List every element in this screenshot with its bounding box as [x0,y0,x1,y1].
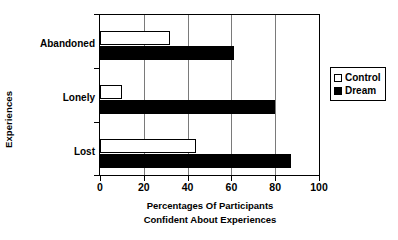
legend-label-control: Control [345,72,381,83]
x-axis-tick-label-100: 100 [299,181,339,193]
y-axis-title: Experiences [0,54,18,184]
x-axis-tick-label-60: 60 [211,181,251,193]
x-axis-title-line-1: Percentages Of Participants [70,199,350,213]
gridline-x-60 [231,15,232,175]
x-axis-tick-labels: 020406080100 [99,181,320,195]
bar-control-abandoned [100,31,170,45]
legend-swatch-dream-icon [334,87,342,95]
category-label-lost: Lost [17,146,95,157]
legend-entry-dream[interactable]: Dream [334,84,381,97]
bar-control-lonely [100,85,122,99]
category-label-lonely: Lonely [17,92,95,103]
plot-area [99,14,320,176]
legend-entry-control[interactable]: Control [334,71,381,84]
bar-dream-lost [100,154,291,168]
bar-dream-lonely [100,100,275,114]
legend-swatch-control-icon [334,74,342,82]
y-axis-title-text: Experiences [4,90,15,147]
x-axis-tick-label-80: 80 [255,181,295,193]
bar-control-lost [100,139,196,153]
bar-chart-figure: Experiences AbandonedLonelyLost 02040608… [0,0,398,240]
category-axis-labels: AbandonedLonelyLost [20,14,98,176]
bar-dream-abandoned [100,46,234,60]
x-axis-tick-label-20: 20 [124,181,164,193]
legend-label-dream: Dream [345,85,376,96]
gridline-x-80 [275,15,276,175]
x-axis-tick-label-0: 0 [80,181,120,193]
x-axis-title-line-2: Confident About Experiences [70,213,350,227]
legend: Control Dream [330,67,386,101]
x-axis-tick-label-40: 40 [168,181,208,193]
x-axis-title: Percentages Of Participants Confident Ab… [70,199,350,227]
category-label-abandoned: Abandoned [17,38,95,49]
